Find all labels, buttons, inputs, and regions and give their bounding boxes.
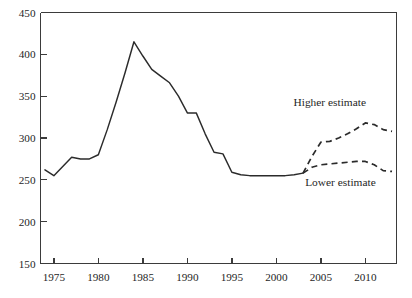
annotation-label-higher-estimate: Higher estimate bbox=[294, 96, 366, 108]
chart-background bbox=[0, 0, 412, 298]
x-tick-label: 1990 bbox=[176, 271, 199, 283]
y-tick-label: 350 bbox=[19, 90, 36, 102]
x-tick-label: 1980 bbox=[87, 271, 110, 283]
x-tick-label: 1995 bbox=[221, 271, 244, 283]
y-tick-label: 250 bbox=[19, 174, 36, 186]
x-tick-label: 1985 bbox=[132, 271, 155, 283]
x-tick-label: 2000 bbox=[265, 271, 288, 283]
x-tick-label: 1975 bbox=[43, 271, 66, 283]
x-tick-label: 2005 bbox=[310, 271, 333, 283]
chart-figure: 150200250300350400450 197519801985199019… bbox=[0, 0, 412, 298]
y-tick-label: 150 bbox=[19, 258, 36, 270]
annotation-label-lower-estimate: Lower estimate bbox=[305, 176, 376, 188]
y-tick-label: 400 bbox=[19, 48, 36, 60]
x-tick-label: 2010 bbox=[354, 271, 377, 283]
y-tick-label: 200 bbox=[19, 216, 36, 228]
y-tick-label: 300 bbox=[19, 132, 36, 144]
y-tick-label: 450 bbox=[19, 7, 36, 19]
chart-canvas: 150200250300350400450 197519801985199019… bbox=[0, 0, 412, 298]
